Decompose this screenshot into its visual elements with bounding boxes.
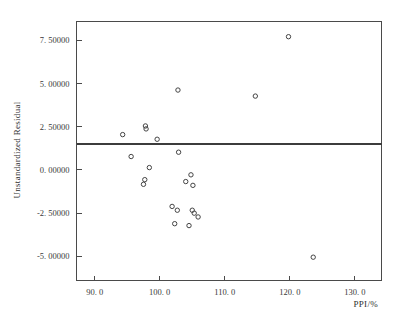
data-point-4 (129, 154, 133, 158)
y-tick-label-5: 7. 50000 (40, 35, 70, 45)
data-point-6 (143, 177, 147, 181)
x-tick-label-2: 110. 0 (214, 287, 235, 297)
data-point-12 (191, 183, 195, 187)
axes-frame (77, 22, 382, 281)
data-point-7 (141, 182, 145, 186)
data-point-5 (147, 165, 151, 169)
data-point-8 (176, 88, 180, 92)
y-axis-title: Unstandardized Residual (12, 101, 22, 198)
y-tick-label-0: -5. 00000 (37, 251, 70, 261)
data-point-0 (120, 132, 124, 136)
data-points (120, 34, 315, 259)
x-tick-label-1: 100. 0 (149, 287, 170, 297)
y-tick-labels: -5. 00000-2. 500000. 000002. 500005. 000… (37, 35, 70, 261)
data-point-13 (170, 204, 174, 208)
axes-rectangle (77, 22, 382, 281)
y-tick-label-3: 2. 50000 (40, 122, 70, 132)
plot-canvas: 90. 0100. 0110. 0120. 0130. 0 -5. 00000-… (0, 0, 401, 330)
tick-marks (77, 40, 355, 280)
data-point-22 (311, 255, 315, 259)
data-point-18 (173, 221, 177, 225)
data-point-14 (175, 208, 179, 212)
x-tick-label-0: 90. 0 (86, 287, 103, 297)
x-tick-label-4: 130. 0 (344, 287, 365, 297)
data-point-10 (189, 173, 193, 177)
data-point-19 (187, 223, 191, 227)
x-tick-labels: 90. 0100. 0110. 0120. 0130. 0 (86, 287, 365, 297)
data-point-21 (286, 34, 290, 38)
data-point-3 (155, 137, 159, 141)
y-tick-label-2: 0. 00000 (40, 165, 70, 175)
y-tick-label-1: -2. 50000 (37, 208, 70, 218)
x-tick-label-3: 120. 0 (279, 287, 300, 297)
scatter-plot-figure: 90. 0100. 0110. 0120. 0130. 0 -5. 00000-… (0, 0, 401, 330)
y-tick-label-4: 5. 00000 (40, 79, 70, 89)
data-point-9 (176, 150, 180, 154)
data-point-11 (184, 179, 188, 183)
data-point-17 (196, 215, 200, 219)
data-point-20 (253, 94, 257, 98)
data-point-2 (144, 127, 148, 131)
x-axis-title: PPI/% (353, 299, 378, 309)
